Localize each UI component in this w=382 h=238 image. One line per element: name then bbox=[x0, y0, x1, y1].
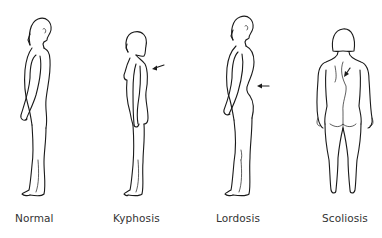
figure-scoliosis bbox=[317, 29, 373, 193]
label-normal: Normal bbox=[15, 212, 54, 224]
label-scoliosis: Scoliosis bbox=[322, 212, 368, 224]
figure-lordosis bbox=[224, 16, 269, 195]
figures-canvas bbox=[0, 0, 382, 238]
posture-diagram: Normal Kyphosis Lordosis Scoliosis bbox=[0, 0, 382, 238]
label-kyphosis: Kyphosis bbox=[113, 212, 160, 224]
figure-kyphosis bbox=[124, 32, 164, 196]
label-lordosis: Lordosis bbox=[216, 212, 260, 224]
figure-normal bbox=[21, 18, 51, 195]
